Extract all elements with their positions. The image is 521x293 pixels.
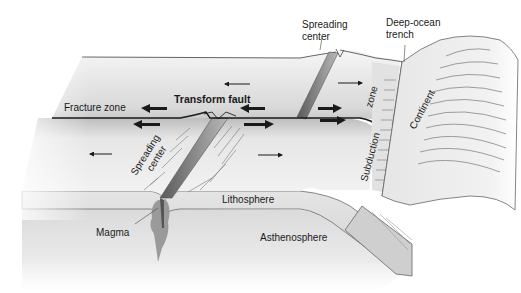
label-spreading-center-top: Spreading — [302, 19, 348, 30]
label-transform-fault: Transform fault — [174, 93, 251, 105]
label-asthenosphere: Asthenosphere — [260, 232, 328, 243]
label-spreading-center-top-2: center — [302, 31, 330, 42]
label-lithosphere: Lithosphere — [222, 194, 275, 205]
continent — [382, 36, 518, 210]
label-magma: Magma — [96, 227, 130, 238]
label-fracture-zone: Fracture zone — [64, 102, 126, 113]
label-deep-ocean-trench: Deep-ocean — [386, 17, 440, 28]
plate-tectonics-diagram: Spreading center Deep-ocean trench Fract… — [0, 0, 521, 293]
asthenosphere-block — [0, 208, 521, 293]
label-deep-ocean-trench-2: trench — [386, 29, 414, 40]
